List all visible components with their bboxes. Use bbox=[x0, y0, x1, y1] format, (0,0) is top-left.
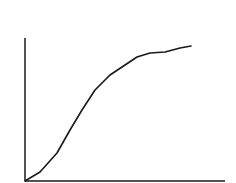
line-chart bbox=[0, 0, 236, 183]
data-line bbox=[25, 46, 191, 181]
